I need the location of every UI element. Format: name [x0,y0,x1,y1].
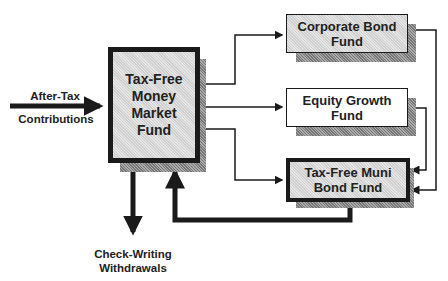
arrow-to-muni [200,129,282,180]
equity-growth-fund-box[interactable]: Equity Growth Fund [286,88,408,127]
tax-free-muni-bond-fund-box[interactable]: Tax-Free Muni Bond Fund [286,158,410,202]
corporate-bond-fund-box[interactable]: Corporate Bond Fund [286,14,408,53]
contributions-label: Contributions [8,112,104,126]
check-writing-withdrawals-label: Check-Writing Withdrawals [85,247,181,275]
money-market-fund-box[interactable]: Tax-Free Money Market Fund [108,47,200,163]
arrow-to-corporate [200,35,282,84]
after-tax-label: After-Tax [10,89,100,103]
